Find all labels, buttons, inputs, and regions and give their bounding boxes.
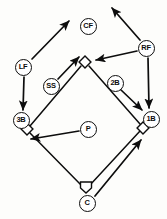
movement-arrows-group <box>23 8 149 196</box>
position-marker-right-fielder: RF <box>138 40 155 57</box>
arrow-2b-to-1B <box>120 89 142 110</box>
position-marker-pitcher: P <box>80 121 97 138</box>
arrow-rf-to-second-base <box>96 51 137 60</box>
baseline-home-to-first <box>90 131 140 185</box>
arrow-rf-to-1B <box>148 58 149 108</box>
position-marker-third-baseman: 3B <box>13 112 30 129</box>
baseline-third-to-home <box>30 133 82 186</box>
position-marker-shortstop: SS <box>43 78 60 95</box>
home-plate <box>81 182 92 193</box>
arrow-ss-to-second-base <box>58 57 79 79</box>
position-marker-first-baseman: 1B <box>143 111 160 128</box>
arrow-c-to-first-base <box>95 140 141 196</box>
position-marker-left-fielder: LF <box>15 59 32 76</box>
position-marker-second-baseman: 2B <box>107 75 124 92</box>
position-marker-center-fielder: CF <box>80 18 97 35</box>
arrow-rf-to-right-field-gap <box>112 8 140 40</box>
baseball-field-diagram: LFCFRFSS2B3B1BPC <box>0 0 167 219</box>
arrow-lf-to-3B <box>23 77 24 110</box>
position-marker-catcher: C <box>79 195 96 212</box>
arrow-p-to-third-base <box>31 131 79 139</box>
arrow-lf-to-center-field-gap <box>32 21 69 59</box>
baseline-second-to-third <box>30 66 81 126</box>
